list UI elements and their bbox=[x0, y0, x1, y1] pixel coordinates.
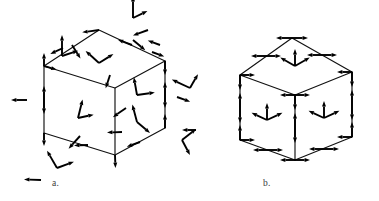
arrow-head bbox=[322, 101, 326, 106]
panel-b-group: b. bbox=[238, 36, 354, 188]
cube-a-arrow-44 bbox=[137, 122, 150, 133]
cube-a-vector-field bbox=[11, 0, 198, 182]
arrow-head bbox=[293, 49, 297, 54]
cube-a-arrow-27 bbox=[47, 151, 57, 168]
arrow-shaft bbox=[133, 40, 141, 47]
cube-b-arrow-23 bbox=[253, 148, 268, 152]
arrow-head bbox=[337, 70, 342, 74]
arrow-head bbox=[88, 114, 94, 118]
cube-b-arrow-13 bbox=[238, 93, 242, 108]
cube-a-arrow-41 bbox=[137, 91, 155, 95]
arrow-shaft bbox=[138, 30, 148, 34]
diagram-canvas: a. b. bbox=[0, 0, 379, 201]
arrow-head bbox=[251, 54, 256, 58]
cube-a-arrow-16 bbox=[163, 95, 167, 108]
cube-b-arrow-33 bbox=[252, 113, 267, 120]
panel-a-group: a. bbox=[11, 0, 198, 188]
arrow-shaft bbox=[134, 110, 137, 122]
arrow-head bbox=[277, 113, 283, 117]
arrow-head bbox=[350, 122, 354, 127]
cube-b-arrow-35 bbox=[322, 101, 326, 118]
arrow-head bbox=[337, 135, 342, 139]
cube-b-top-front-edges bbox=[240, 72, 352, 95]
arrow-shaft bbox=[78, 116, 88, 118]
cube-b-arrow-10 bbox=[293, 95, 297, 110]
arrow-head bbox=[276, 36, 281, 40]
arrow-head bbox=[305, 158, 310, 162]
arrow-shaft bbox=[267, 115, 278, 120]
cube-a-arrow-3 bbox=[42, 53, 46, 66]
arrow-head bbox=[309, 147, 314, 151]
arrow-shaft bbox=[295, 60, 305, 66]
figure-root: a. b. bbox=[0, 0, 379, 201]
cube-b-arrow-31 bbox=[295, 58, 310, 67]
cube-b-arrow-34 bbox=[267, 113, 282, 120]
arrow-head bbox=[163, 82, 167, 87]
cube-a-arrow-11 bbox=[118, 40, 132, 45]
cube-a-arrow-22 bbox=[182, 140, 190, 155]
arrow-head bbox=[74, 143, 79, 147]
arrow-shaft bbox=[182, 132, 192, 140]
cube-a-arrow-30 bbox=[42, 133, 46, 146]
arrow-shaft bbox=[123, 42, 132, 45]
arrow-head bbox=[250, 138, 255, 142]
arrow-head bbox=[309, 111, 315, 115]
arrow-head bbox=[79, 100, 83, 106]
arrow-head bbox=[303, 36, 308, 40]
cube-b-arrow-30 bbox=[280, 58, 295, 67]
arrow-head bbox=[276, 54, 281, 58]
arrow-shaft bbox=[132, 142, 140, 145]
arrow-shaft bbox=[90, 55, 99, 63]
arrow-head bbox=[293, 105, 297, 110]
arrow-shaft bbox=[324, 113, 335, 118]
arrow-head bbox=[131, 0, 135, 1]
arrow-head bbox=[252, 113, 258, 117]
arrow-head bbox=[307, 53, 312, 57]
cube-a-arrow-25 bbox=[113, 155, 117, 168]
arrow-head bbox=[350, 90, 354, 95]
arrow-shaft bbox=[107, 75, 110, 83]
cube-a-arrow-20 bbox=[163, 114, 167, 128]
arrow-head bbox=[250, 73, 255, 77]
cube-a-arrow-33 bbox=[11, 98, 27, 102]
arrow-shaft bbox=[152, 52, 159, 55]
arrow-head bbox=[182, 128, 187, 132]
cube-a-arrow-40 bbox=[133, 77, 137, 95]
arrow-head bbox=[253, 148, 258, 152]
arrow-shaft bbox=[177, 97, 185, 100]
cube-a-arrow-24 bbox=[127, 142, 140, 147]
cube-a-arrow-35 bbox=[99, 54, 113, 63]
cube-b-arrow-32 bbox=[265, 103, 269, 120]
arrow-head bbox=[42, 141, 46, 146]
cube-a-arrow-32 bbox=[42, 100, 46, 114]
arrow-head bbox=[334, 147, 339, 151]
arrow-head bbox=[51, 66, 57, 70]
panel-b-caption: b. bbox=[263, 178, 271, 188]
cube-a-arrow-29 bbox=[24, 178, 41, 182]
arrow-shaft bbox=[133, 13, 143, 18]
cube-b-arrow-6 bbox=[238, 75, 242, 90]
arrow-head bbox=[82, 30, 88, 34]
arrow-head bbox=[238, 118, 242, 123]
cube-b-arrow-19 bbox=[238, 125, 242, 140]
cube-a-arrow-31 bbox=[42, 86, 46, 100]
arrow-shaft bbox=[177, 82, 190, 88]
arrow-shaft bbox=[99, 57, 109, 63]
arrow-shaft bbox=[182, 140, 187, 150]
arrow-head bbox=[293, 113, 297, 118]
arrow-head bbox=[332, 53, 337, 57]
arrow-head bbox=[148, 41, 154, 45]
arrow-head bbox=[238, 85, 242, 90]
cube-a-arrow-7 bbox=[131, 0, 135, 18]
cube-a-arrow-8 bbox=[133, 11, 147, 18]
arrow-head bbox=[149, 91, 155, 95]
arrow-shaft bbox=[256, 115, 267, 120]
cube-a-arrow-15 bbox=[163, 82, 167, 95]
arrow-head bbox=[127, 143, 133, 147]
cube-a-arrow-12 bbox=[148, 41, 160, 45]
cube-b-arrow-18 bbox=[293, 128, 297, 143]
arrow-head bbox=[142, 11, 148, 15]
arrow-head bbox=[158, 53, 164, 57]
cube-a-top-front-edges bbox=[44, 61, 165, 88]
cube-a-arrow-4 bbox=[44, 66, 57, 70]
